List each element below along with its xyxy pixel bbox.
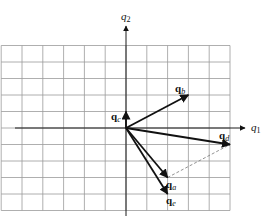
vector-diagram: q1 q2 qa qb qc qd qe — [0, 0, 273, 224]
vector-label-q-a: qa — [166, 178, 176, 192]
q1-axis-label: q1 — [251, 121, 261, 135]
q2-axis-label: q2 — [121, 10, 131, 24]
vector-label-q-e: qe — [166, 194, 176, 208]
vector-label-q-c: qc — [111, 110, 121, 124]
vector-q-d — [126, 128, 230, 145]
vector-label-q-b: qb — [175, 82, 185, 96]
vector-label-q-d: qd — [219, 129, 230, 143]
